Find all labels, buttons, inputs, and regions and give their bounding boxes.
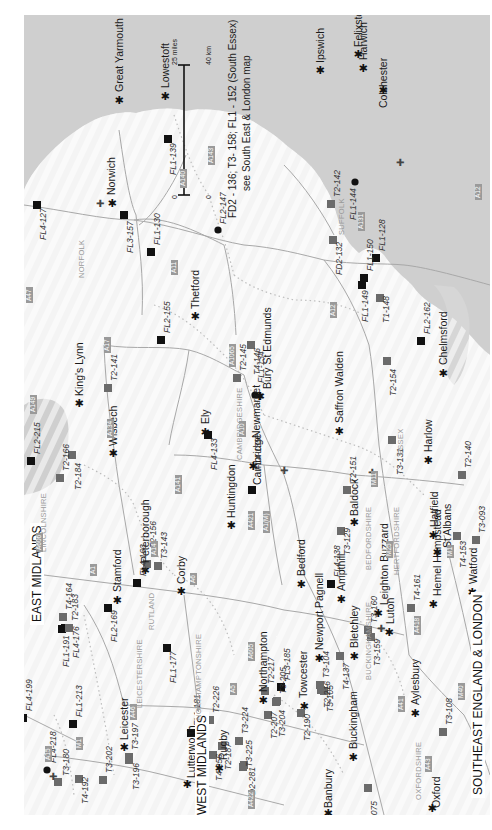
- town-marker-icon[interactable]: ✱: [350, 650, 359, 663]
- site-label[interactable]: FL4-127: [39, 208, 48, 240]
- site-marker-circle[interactable]: [351, 178, 358, 185]
- town-marker-icon[interactable]: ✱: [324, 807, 333, 815]
- town-marker-icon[interactable]: ✱: [337, 593, 346, 606]
- site-marker-grey[interactable]: [235, 737, 243, 745]
- site-label[interactable]: FL1-139: [169, 143, 178, 175]
- town-label[interactable]: Norwich: [106, 157, 117, 195]
- town-marker-icon[interactable]: ✱: [349, 751, 358, 764]
- site-label[interactable]: T3-197: [131, 723, 140, 750]
- town-label[interactable]: Aylesbury: [410, 659, 421, 705]
- town-label[interactable]: Ely: [200, 409, 211, 424]
- site-label[interactable]: FL1-191: [62, 635, 71, 667]
- site-marker-grey[interactable]: [439, 728, 447, 736]
- town-label[interactable]: Chelmsford: [438, 311, 449, 365]
- town-label[interactable]: Buckingham: [348, 691, 359, 749]
- town-label[interactable]: Towcester: [298, 651, 309, 698]
- site-label[interactable]: FL2-215: [33, 422, 42, 454]
- town-label[interactable]: Newport Pagnell: [314, 573, 325, 650]
- town-marker-icon[interactable]: ✱: [359, 62, 368, 75]
- site-label[interactable]: FL1-130: [153, 213, 162, 245]
- town-label[interactable]: Baldock: [349, 479, 360, 516]
- town-label[interactable]: Saffron Walden: [334, 351, 345, 423]
- town-marker-icon[interactable]: ✱: [120, 741, 129, 754]
- site-marker-black[interactable]: [164, 135, 172, 143]
- site-label[interactable]: T3-202: [105, 746, 114, 773]
- town-label[interactable]: Ipswich: [315, 28, 326, 63]
- town-marker-icon[interactable]: ✱: [429, 598, 438, 611]
- town-label[interactable]: Leicester: [119, 697, 130, 740]
- site-label[interactable]: FL1-177: [169, 651, 178, 683]
- site-label[interactable]: FL4-133: [210, 438, 219, 470]
- site-label[interactable]: T2-226: [212, 686, 221, 713]
- site-label[interactable]: T3-225: [245, 740, 254, 767]
- town-marker-icon[interactable]: ✱: [385, 626, 394, 639]
- town-label[interactable]: King's Lynn: [74, 342, 85, 396]
- airport-icon[interactable]: ✚: [377, 623, 385, 634]
- town-marker-icon[interactable]: ✱: [227, 519, 236, 532]
- site-label[interactable]: T3-180: [62, 749, 71, 776]
- town-label[interactable]: Hemel Hempstead: [432, 509, 443, 596]
- site-marker-grey[interactable]: [364, 784, 372, 792]
- town-marker-icon[interactable]: ✱: [75, 397, 84, 410]
- site-label[interactable]: FL2-169: [110, 610, 119, 642]
- site-marker-grey[interactable]: [383, 357, 391, 365]
- site-label[interactable]: T2-166: [62, 444, 71, 471]
- map-canvas[interactable]: ✱✱✱✱✱✱✱✱✱✱✱✱✱✱✱✱✱✱✱✱✱✱✱✱✱✱✱✱✱✱✱✱✱✱✱✱✱✱✱✱…: [24, 15, 490, 815]
- site-marker-grey[interactable]: [56, 474, 64, 482]
- site-marker-black[interactable]: [24, 714, 27, 722]
- site-marker-grey[interactable]: [233, 374, 241, 382]
- site-label[interactable]: T3-196: [132, 763, 141, 790]
- site-marker-grey[interactable]: [104, 384, 112, 392]
- site-label[interactable]: T4-192: [81, 777, 90, 804]
- airport-icon[interactable]: ✚: [96, 198, 104, 209]
- site-marker-black[interactable]: [327, 580, 335, 588]
- site-label[interactable]: T3-108: [445, 698, 454, 725]
- site-label[interactable]: T3-075: [370, 801, 379, 815]
- site-label[interactable]: T3-104: [322, 651, 331, 678]
- town-label[interactable]: Stamford: [112, 549, 123, 592]
- town-marker-icon[interactable]: ✱: [259, 694, 268, 707]
- town-marker-icon[interactable]: ✱: [113, 594, 122, 607]
- site-label[interactable]: FL1-128: [378, 219, 387, 251]
- site-marker-grey[interactable]: [453, 532, 461, 540]
- site-label[interactable]: T4-161: [413, 574, 422, 601]
- town-label[interactable]: Huntingdon: [226, 464, 237, 518]
- site-label[interactable]: T3-093: [478, 506, 487, 533]
- town-label[interactable]: Great Yarmouth: [114, 18, 125, 92]
- site-marker-black[interactable]: [147, 248, 155, 256]
- town-marker-icon[interactable]: ✱: [115, 94, 124, 107]
- site-marker-grey[interactable]: [407, 604, 415, 612]
- town-marker-icon[interactable]: ✱: [161, 90, 170, 103]
- site-label[interactable]: FL4-135: [254, 438, 263, 470]
- site-label[interactable]: FL3-157: [126, 221, 135, 253]
- airport-icon[interactable]: ✚: [49, 771, 57, 782]
- site-label[interactable]: T4-137: [342, 663, 351, 690]
- site-marker-grey[interactable]: [154, 562, 162, 570]
- town-label[interactable]: Leighton Buzzard: [379, 523, 390, 605]
- site-label[interactable]: T4-153: [459, 541, 468, 568]
- site-label[interactable]: T4-146: [253, 348, 262, 375]
- town-label[interactable]: Watford: [468, 548, 479, 584]
- town-label[interactable]: Luton: [385, 598, 396, 624]
- site-label[interactable]: T3-159: [373, 639, 382, 666]
- site-label[interactable]: FL4-199: [25, 679, 34, 711]
- site-marker-grey[interactable]: [388, 436, 396, 444]
- town-marker-icon[interactable]: ✱: [191, 310, 200, 323]
- site-label[interactable]: T2-216: [323, 681, 332, 708]
- site-label[interactable]: T3-224: [241, 707, 250, 734]
- site-label[interactable]: T2-142: [333, 170, 342, 197]
- airport-icon[interactable]: ✚: [396, 157, 404, 168]
- town-label[interactable]: Lowestoft: [160, 43, 171, 88]
- site-marker-black[interactable]: [360, 274, 368, 282]
- town-label[interactable]: Bedford: [296, 539, 307, 576]
- site-label[interactable]: FD2-132: [335, 242, 344, 275]
- site-marker-black[interactable]: [157, 336, 165, 344]
- site-label[interactable]: FL1-149: [361, 290, 370, 322]
- site-label[interactable]: T2-154: [389, 369, 398, 396]
- site-label[interactable]: T2-151: [349, 456, 358, 483]
- site-marker-black[interactable]: [248, 486, 256, 494]
- site-label[interactable]: FL4-163: [139, 544, 148, 576]
- site-label[interactable]: FL4-176: [72, 626, 81, 658]
- town-marker-icon[interactable]: ✱: [335, 425, 344, 438]
- site-marker-grey[interactable]: [472, 536, 480, 544]
